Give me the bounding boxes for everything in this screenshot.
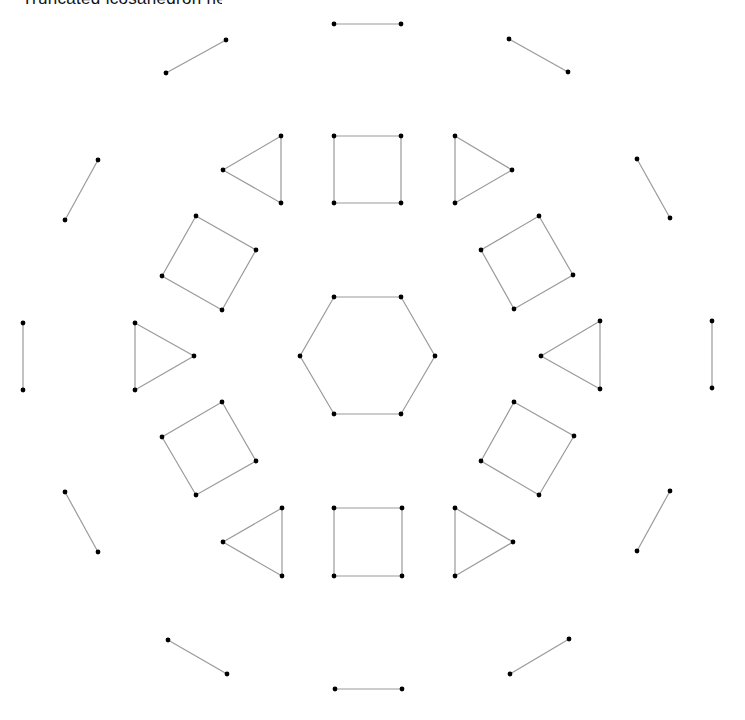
triangle-bottom-left-vertex xyxy=(221,540,226,545)
segment-upper-left-vertex xyxy=(96,158,101,163)
segment-left-vertex xyxy=(21,388,26,393)
square-top-vertex xyxy=(332,201,337,206)
segments-layer xyxy=(23,24,712,689)
square-lower-right-vertex xyxy=(572,434,577,439)
square-upper-right-vertex xyxy=(512,307,517,312)
square-top-vertex xyxy=(399,201,404,206)
shapes-layer xyxy=(135,136,600,576)
square-bottom-vertex xyxy=(400,506,405,511)
square-lower-left-vertex xyxy=(220,400,225,405)
segment-top-vertex xyxy=(332,22,337,27)
segment-bottom-right xyxy=(510,639,569,674)
triangle-top-right-vertex xyxy=(453,134,458,139)
segment-bottom-right-vertex xyxy=(508,672,513,677)
square-upper-left-vertex xyxy=(220,308,225,313)
square-top-vertex xyxy=(332,134,337,139)
segment-top-left-vertex xyxy=(224,38,229,43)
segment-upper-left-vertex xyxy=(63,218,68,223)
square-upper-left xyxy=(162,216,256,310)
segment-upper-right xyxy=(637,159,670,218)
segment-bottom-left-vertex xyxy=(225,672,230,677)
triangle-top-right xyxy=(455,136,512,203)
triangle-left-vertex xyxy=(192,354,197,359)
segment-bottom-right-vertex xyxy=(567,637,572,642)
square-upper-right-vertex xyxy=(537,214,542,219)
triangle-right-vertex xyxy=(539,354,544,359)
center-hexagon-vertex xyxy=(332,412,337,417)
segment-lower-right-vertex xyxy=(668,489,673,494)
segment-top-right xyxy=(509,39,568,72)
square-bottom-vertex xyxy=(332,574,337,579)
segment-upper-left xyxy=(65,160,98,220)
segment-right-vertex xyxy=(710,386,715,391)
triangle-bottom-right-vertex xyxy=(453,506,458,511)
center-hexagon-vertex xyxy=(433,354,438,359)
diagram-canvas xyxy=(0,0,745,720)
square-bottom-vertex xyxy=(332,506,337,511)
square-upper-left-vertex xyxy=(160,274,165,279)
square-lower-right-vertex xyxy=(537,493,542,498)
center-hexagon xyxy=(300,297,435,414)
triangle-right xyxy=(541,321,600,389)
segment-lower-left-vertex xyxy=(63,490,68,495)
segment-top-right-vertex xyxy=(566,70,571,75)
center-hexagon-vertex xyxy=(298,354,303,359)
square-upper-right-vertex xyxy=(479,248,484,253)
segment-lower-left-vertex xyxy=(96,550,101,555)
triangle-bottom-right-vertex xyxy=(453,574,458,579)
square-top xyxy=(334,136,401,203)
center-hexagon-vertex xyxy=(332,295,337,300)
segment-upper-right-vertex xyxy=(668,216,673,221)
square-lower-left-vertex xyxy=(160,435,165,440)
segment-lower-right-vertex xyxy=(635,549,640,554)
square-lower-left-vertex xyxy=(194,493,199,498)
square-lower-left-vertex xyxy=(254,459,259,464)
triangle-top-left-vertex xyxy=(221,168,226,173)
triangle-left xyxy=(135,323,194,390)
segment-top-vertex xyxy=(399,22,404,27)
center-hexagon-vertex xyxy=(399,295,404,300)
triangle-bottom-left-vertex xyxy=(280,506,285,511)
segment-left-vertex xyxy=(21,321,26,326)
square-upper-right xyxy=(481,216,573,309)
triangle-right-vertex xyxy=(598,319,603,324)
square-top-vertex xyxy=(399,134,404,139)
triangle-top-left-vertex xyxy=(279,134,284,139)
segment-top-left xyxy=(166,40,226,73)
triangle-top-right-vertex xyxy=(453,201,458,206)
triangle-bottom-left xyxy=(223,508,282,576)
segment-bottom-vertex xyxy=(400,687,405,692)
segment-upper-right-vertex xyxy=(635,157,640,162)
triangle-bottom-right xyxy=(455,508,513,576)
vertices-layer xyxy=(21,22,715,692)
square-upper-left-vertex xyxy=(194,214,199,219)
square-lower-right-vertex xyxy=(479,459,484,464)
segment-bottom-left xyxy=(168,640,227,674)
segment-bottom-left-vertex xyxy=(166,638,171,643)
square-upper-right-vertex xyxy=(571,273,576,278)
triangle-top-left-vertex xyxy=(279,201,284,206)
segment-lower-left xyxy=(65,492,98,552)
triangle-bottom-left-vertex xyxy=(280,574,285,579)
square-bottom-vertex xyxy=(400,574,405,579)
segment-right-vertex xyxy=(710,319,715,324)
square-upper-left-vertex xyxy=(254,248,259,253)
triangle-top-left xyxy=(223,136,281,203)
segment-top-left-vertex xyxy=(164,71,169,76)
square-lower-right xyxy=(481,402,574,495)
triangle-bottom-right-vertex xyxy=(511,540,516,545)
triangle-left-vertex xyxy=(133,321,138,326)
center-hexagon-vertex xyxy=(399,412,404,417)
square-bottom xyxy=(334,508,402,576)
segment-lower-right xyxy=(637,491,670,551)
square-lower-left xyxy=(162,402,256,495)
triangle-left-vertex xyxy=(133,388,138,393)
segment-top-right-vertex xyxy=(507,37,512,42)
triangle-right-vertex xyxy=(598,387,603,392)
triangle-top-right-vertex xyxy=(510,168,515,173)
square-lower-right-vertex xyxy=(512,400,517,405)
segment-bottom-vertex xyxy=(333,687,338,692)
